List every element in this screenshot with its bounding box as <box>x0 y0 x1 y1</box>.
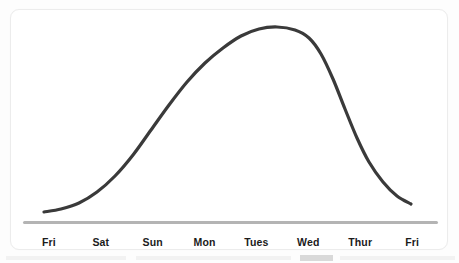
chart-card: Fri Sat Sun Mon Tues Wed Thur Fri <box>10 9 448 250</box>
remnant-line-1 <box>6 256 126 260</box>
x-tick-label-sat: Sat <box>75 235 127 251</box>
bell-curve-line <box>44 27 411 212</box>
x-tick-label-fri-end: Fri <box>386 235 438 251</box>
x-tick-label-wed: Wed <box>282 235 334 251</box>
remnant-line-3 <box>340 256 455 260</box>
remnant-block <box>300 255 333 261</box>
x-tick-label-mon: Mon <box>179 235 231 251</box>
x-tick-label-thur: Thur <box>334 235 386 251</box>
plot-area <box>11 10 449 223</box>
bell-curve-plot <box>11 10 449 223</box>
x-axis-line <box>23 221 438 224</box>
x-axis-tick-labels: Fri Sat Sun Mon Tues Wed Thur Fri <box>23 235 438 251</box>
page-remnant-strip <box>0 254 459 263</box>
x-tick-label-sun: Sun <box>127 235 179 251</box>
chart-screenshot-root: Fri Sat Sun Mon Tues Wed Thur Fri <box>0 0 459 263</box>
x-tick-label-tues: Tues <box>231 235 283 251</box>
remnant-line-2 <box>136 256 291 260</box>
x-tick-label-fri-start: Fri <box>23 235 75 251</box>
